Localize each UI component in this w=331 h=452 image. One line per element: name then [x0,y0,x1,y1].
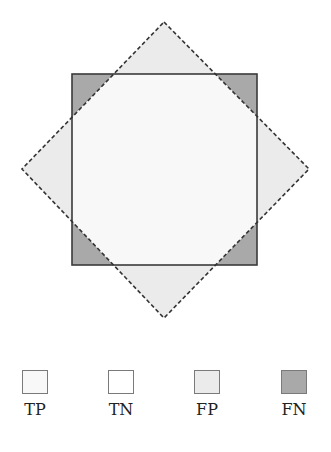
legend-swatch-fn [281,370,307,394]
legend-swatch-fp [194,370,220,394]
legend: TP TN FP FN [0,368,331,428]
legend-item-tn: TN [96,368,146,419]
legend-label-fn: FN [269,400,319,419]
legend-label-fp: FP [182,400,232,419]
overlap-diagram [0,0,331,330]
legend-item-fn: FN [269,368,319,419]
legend-label-tp: TP [10,400,60,419]
legend-label-tn: TN [96,400,146,419]
legend-item-tp: TP [10,368,60,419]
legend-item-fp: FP [182,368,232,419]
legend-swatch-tn [108,370,134,394]
legend-swatch-tp [22,370,48,394]
